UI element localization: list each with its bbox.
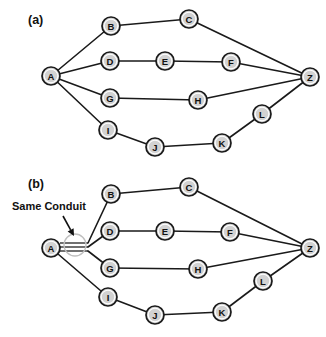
node-b[interactable]: B xyxy=(102,185,120,203)
node-f[interactable]: F xyxy=(221,223,239,241)
node-i[interactable]: I xyxy=(99,121,117,139)
node-c[interactable]: C xyxy=(180,178,198,196)
node-label-h: H xyxy=(195,264,202,275)
node-l[interactable]: L xyxy=(254,272,272,290)
node-g[interactable]: G xyxy=(101,259,119,277)
panel-label-b: (b) xyxy=(28,177,44,191)
node-label-d: D xyxy=(107,226,114,237)
node-label-i: I xyxy=(107,292,110,303)
figure-root: ABCDEFGHIJKLZ(a) ABCDEFGHIJKLZ(b)Same Co… xyxy=(0,0,326,337)
node-label-h: H xyxy=(195,95,202,106)
node-g[interactable]: G xyxy=(101,89,119,107)
graph-figure-svg: ABCDEFGHIJKLZ(a) ABCDEFGHIJKLZ(b)Same Co… xyxy=(0,0,326,337)
node-label-e: E xyxy=(162,56,168,67)
node-label-i: I xyxy=(107,125,110,136)
node-label-j: J xyxy=(152,142,157,153)
node-f[interactable]: F xyxy=(222,53,240,71)
node-label-c: C xyxy=(186,14,193,25)
node-e[interactable]: E xyxy=(156,52,174,70)
node-j[interactable]: J xyxy=(146,306,164,324)
node-k[interactable]: K xyxy=(213,134,231,152)
edge-e-f xyxy=(165,61,231,62)
node-label-b: B xyxy=(108,21,115,32)
node-h[interactable]: H xyxy=(189,260,207,278)
node-label-c: C xyxy=(186,182,193,193)
node-label-e: E xyxy=(162,226,168,237)
node-b[interactable]: B xyxy=(102,17,120,35)
node-d[interactable]: D xyxy=(101,52,119,70)
node-label-z: Z xyxy=(307,72,313,83)
node-label-l: L xyxy=(259,109,265,120)
node-label-k: K xyxy=(219,307,226,318)
node-label-f: F xyxy=(228,57,234,68)
node-h[interactable]: H xyxy=(189,91,207,109)
node-a[interactable]: A xyxy=(42,239,60,257)
node-a[interactable]: A xyxy=(42,67,60,85)
node-z[interactable]: Z xyxy=(301,68,319,86)
node-label-g: G xyxy=(106,93,113,104)
node-label-l: L xyxy=(260,276,266,287)
node-label-d: D xyxy=(107,56,114,67)
node-k[interactable]: K xyxy=(213,303,231,321)
node-j[interactable]: J xyxy=(146,138,164,156)
node-l[interactable]: L xyxy=(253,105,271,123)
node-label-g: G xyxy=(106,263,113,274)
node-c[interactable]: C xyxy=(180,10,198,28)
node-label-z: Z xyxy=(307,243,313,254)
node-i[interactable]: I xyxy=(99,288,117,306)
annotation-text: Same Conduit xyxy=(12,200,86,212)
node-e[interactable]: E xyxy=(156,222,174,240)
node-label-b: B xyxy=(108,189,115,200)
figure-background xyxy=(0,0,326,337)
panel-label-a: (a) xyxy=(28,13,43,27)
node-label-a: A xyxy=(48,243,55,254)
node-label-k: K xyxy=(219,138,226,149)
node-z[interactable]: Z xyxy=(301,239,319,257)
node-label-a: A xyxy=(48,71,55,82)
node-label-j: J xyxy=(152,310,157,321)
edge-g-h xyxy=(110,268,198,269)
node-label-f: F xyxy=(227,227,233,238)
node-d[interactable]: D xyxy=(101,222,119,240)
